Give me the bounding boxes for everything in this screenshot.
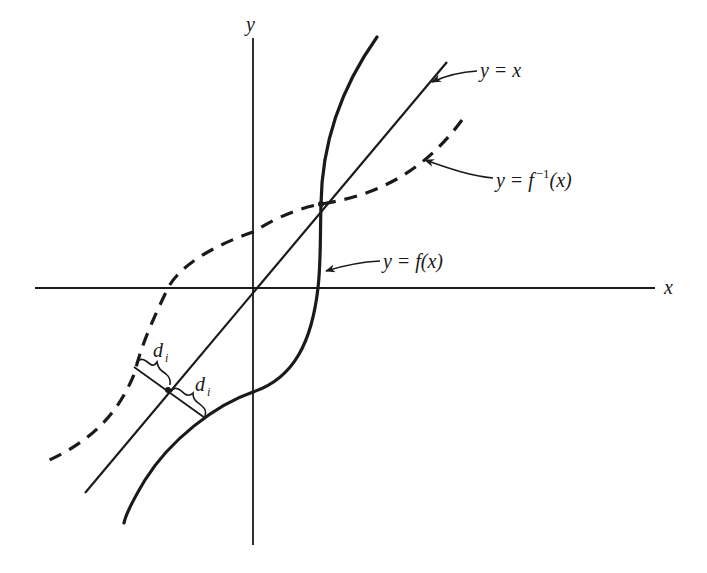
label-identity-eq: = <box>495 59 506 81</box>
label-f-inverse-sup: −1 <box>536 166 550 181</box>
label-f-eq: = <box>398 250 409 272</box>
diagram-canvas <box>0 0 707 573</box>
distance-label-lower-symbol: d <box>195 373 205 395</box>
distance-label-lower: di <box>195 374 210 394</box>
leader-f <box>326 261 380 271</box>
label-f-lhs: y <box>383 250 392 272</box>
distance-point-identity <box>165 387 171 393</box>
x-axis-label: x <box>664 277 673 297</box>
leader-f-inverse <box>425 160 493 178</box>
label-f-inverse-lhs: y <box>496 169 505 191</box>
label-identity: y=x <box>480 60 521 80</box>
distance-label-upper-subscript: i <box>165 351 168 365</box>
f-curve <box>124 37 377 523</box>
label-f-inverse-arg: (x) <box>550 169 572 191</box>
distance-label-upper: di <box>153 340 168 360</box>
label-f: y=f(x) <box>383 251 443 271</box>
identity-line <box>85 62 447 493</box>
distance-label-upper-symbol: d <box>153 339 163 361</box>
y-axis-label: y <box>246 14 255 34</box>
distance-label-lower-subscript: i <box>207 385 210 399</box>
label-f-rhs: f(x) <box>415 250 443 272</box>
label-f-inverse-eq: = <box>511 169 522 191</box>
label-f-inverse-base: f <box>528 169 534 191</box>
label-f-inverse: y=f−1(x) <box>496 170 572 190</box>
intersection-point <box>318 201 324 207</box>
label-identity-lhs: y <box>480 59 489 81</box>
label-identity-rhs: x <box>512 59 521 81</box>
